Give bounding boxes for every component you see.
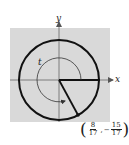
y-sign: − bbox=[104, 126, 110, 134]
y-denominator: 17 bbox=[111, 130, 122, 137]
y-axis-label: y bbox=[56, 14, 61, 23]
close-paren: ) bbox=[123, 121, 129, 138]
y-fraction: 15 17 bbox=[111, 122, 122, 137]
gray-background-panel bbox=[10, 28, 110, 122]
point-coordinate-label: ( 8 17 , − 15 17 ) bbox=[80, 121, 129, 138]
angle-label-t: t bbox=[38, 58, 42, 67]
open-paren: ( bbox=[80, 121, 87, 138]
coordinate-separator: , bbox=[101, 126, 103, 134]
x-fraction: 8 17 bbox=[88, 122, 99, 137]
x-denominator: 17 bbox=[88, 130, 99, 137]
x-axis-label: x bbox=[115, 75, 120, 84]
point-marker bbox=[76, 113, 80, 117]
